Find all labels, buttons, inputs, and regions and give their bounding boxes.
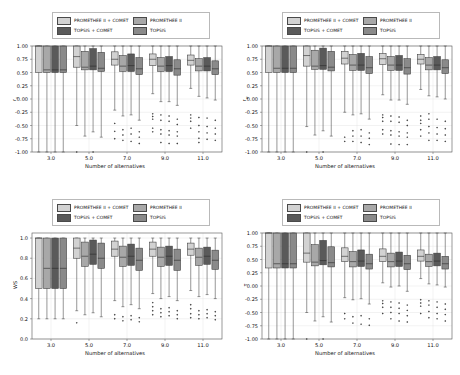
y-tick-label: -0.50 (230, 123, 258, 129)
x-tick-label: 7.0 (345, 342, 369, 348)
x-tick-label: 11.0 (191, 155, 215, 161)
x-tick-label: 9.0 (383, 155, 407, 161)
legend-swatch-icon (287, 27, 301, 35)
legend-label: PROMETHEE II + COMET (304, 18, 358, 23)
legend-row: TOPSIS + COMETTOPSIS (55, 213, 207, 222)
x-tick-label: 3.0 (269, 155, 293, 161)
panel-ws: 1.00.80.60.40.20.03.05.07.09.011.0Number… (0, 187, 230, 375)
legend: PROMETHEE II + COMETPROMETHEE IITOPSIS +… (52, 199, 210, 226)
legend-label: TOPSIS + COMET (304, 215, 343, 220)
x-tick-label: 3.0 (269, 342, 293, 348)
legend-label: TOPSIS (150, 215, 166, 220)
legend-row: TOPSIS + COMETTOPSIS (285, 213, 437, 222)
legend-label: PROMETHEE II (150, 18, 182, 23)
legend-swatch-icon (133, 27, 147, 35)
x-tick-label: 7.0 (115, 155, 139, 161)
x-tick-label: 5.0 (77, 155, 101, 161)
y-tick-label: 1.00 (230, 230, 258, 236)
y-axis-label-subscript: w (245, 97, 249, 100)
x-tick-label: 7.0 (345, 155, 369, 161)
legend-label: PROMETHEE II + COMET (304, 205, 358, 210)
legend-swatch-icon (363, 17, 377, 25)
y-axis-label-base: r (241, 99, 247, 101)
y-tick-label: -0.50 (230, 310, 258, 316)
legend-swatch-icon (133, 214, 147, 222)
legend-entry-promethee2-comet[interactable]: PROMETHEE II + COMET (285, 204, 361, 212)
legend-swatch-icon (57, 27, 71, 35)
x-tick-label: 11.0 (191, 342, 215, 348)
y-tick-label: -0.50 (0, 123, 28, 129)
y-tick-label: 0.75 (230, 56, 258, 62)
legend-swatch-icon (57, 17, 71, 25)
x-axis-label: Number of alternatives (230, 350, 460, 356)
x-tick-label: 5.0 (77, 342, 101, 348)
legend: PROMETHEE II + COMETPROMETHEE IITOPSIS +… (52, 12, 210, 39)
legend-entry-topsis[interactable]: TOPSIS (131, 27, 207, 35)
legend-entry-topsis-comet[interactable]: TOPSIS + COMET (55, 214, 131, 222)
x-axis-label: Number of alternatives (230, 163, 460, 169)
y-tick-label: 1.00 (0, 43, 28, 49)
y-tick-label: 1.00 (230, 43, 258, 49)
y-tick-label: 0.8 (0, 255, 28, 261)
legend-label: PROMETHEE II (150, 205, 182, 210)
y-tick-label: 0.75 (230, 243, 258, 249)
legend-entry-topsis-comet[interactable]: TOPSIS + COMET (55, 27, 131, 35)
y-tick-label: -1.00 (230, 149, 258, 155)
legend-swatch-icon (133, 17, 147, 25)
legend-entry-topsis[interactable]: TOPSIS (131, 214, 207, 222)
legend-label: TOPSIS + COMET (74, 28, 113, 33)
y-tick-label: 0.50 (230, 257, 258, 263)
legend-entry-promethee2[interactable]: PROMETHEE II (131, 204, 207, 212)
legend-entry-promethee2-comet[interactable]: PROMETHEE II + COMET (55, 204, 131, 212)
y-tick-label: -1.00 (230, 336, 258, 342)
figure-grid: 1.000.750.500.250.00-0.25-0.50-0.75-1.00… (0, 0, 460, 375)
x-tick-label: 9.0 (153, 342, 177, 348)
legend-swatch-icon (57, 214, 71, 222)
legend-swatch-icon (133, 204, 147, 212)
y-tick-label: 0.50 (230, 70, 258, 76)
legend-row: PROMETHEE II + COMETPROMETHEE II (55, 203, 207, 212)
legend-entry-topsis-comet[interactable]: TOPSIS + COMET (285, 27, 361, 35)
y-axis-label: τ (242, 270, 248, 300)
legend-swatch-icon (287, 214, 301, 222)
x-axis-label: Number of alternatives (0, 163, 230, 169)
legend-entry-promethee2[interactable]: PROMETHEE II (131, 17, 207, 25)
x-tick-label: 9.0 (383, 342, 407, 348)
legend-entry-promethee2[interactable]: PROMETHEE II (361, 17, 437, 25)
y-axis-label-base: r (11, 99, 17, 101)
legend-entry-promethee2-comet[interactable]: PROMETHEE II + COMET (285, 17, 361, 25)
y-axis-label: rs (11, 84, 19, 114)
y-axis-label-base: WS (12, 281, 18, 289)
legend-entry-topsis-comet[interactable]: TOPSIS + COMET (285, 214, 361, 222)
legend-entry-topsis[interactable]: TOPSIS (361, 214, 437, 222)
legend-swatch-icon (363, 214, 377, 222)
x-tick-label: 5.0 (307, 155, 331, 161)
x-tick-label: 11.0 (421, 155, 445, 161)
y-tick-label: 0.2 (0, 316, 28, 322)
legend-row: PROMETHEE II + COMETPROMETHEE II (55, 16, 207, 25)
x-axis-label: Number of alternatives (0, 350, 230, 356)
legend-label: TOPSIS (380, 28, 396, 33)
legend-entry-topsis[interactable]: TOPSIS (361, 27, 437, 35)
legend-entry-promethee2-comet[interactable]: PROMETHEE II + COMET (55, 17, 131, 25)
y-tick-label: -0.75 (0, 136, 28, 142)
y-tick-label: 0.50 (0, 70, 28, 76)
x-tick-label: 7.0 (115, 342, 139, 348)
y-tick-label: -0.75 (230, 136, 258, 142)
x-tick-label: 9.0 (153, 155, 177, 161)
x-tick-label: 11.0 (421, 342, 445, 348)
y-tick-label: 1.0 (0, 235, 28, 241)
legend-entry-promethee2[interactable]: PROMETHEE II (361, 204, 437, 212)
legend-label: TOPSIS (380, 215, 396, 220)
y-axis-label-base: τ (242, 284, 248, 287)
legend-swatch-icon (363, 27, 377, 35)
y-axis-label-subscript: s (15, 97, 19, 99)
legend-swatch-icon (287, 204, 301, 212)
legend-row: TOPSIS + COMETTOPSIS (55, 26, 207, 35)
legend-label: PROMETHEE II (380, 18, 412, 23)
legend-swatch-icon (57, 204, 71, 212)
y-tick-label: -0.75 (230, 323, 258, 329)
x-tick-label: 3.0 (39, 342, 63, 348)
legend-label: PROMETHEE II (380, 205, 412, 210)
legend-swatch-icon (363, 204, 377, 212)
